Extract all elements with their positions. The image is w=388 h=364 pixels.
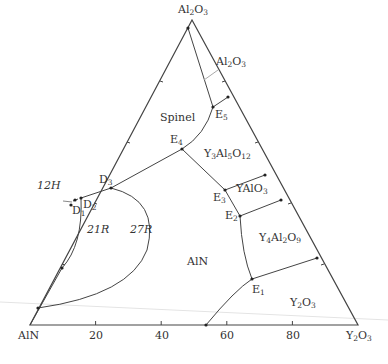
field-label-aln: AlN	[187, 256, 208, 267]
field-label-yag: Y3Al5O12	[204, 148, 251, 161]
point-label-e1: E1	[252, 284, 265, 297]
point-e3-edge	[263, 173, 266, 176]
tick-label-40: 40	[155, 330, 169, 341]
point-label-d1: D1	[72, 205, 86, 218]
point-label-e3: E3	[213, 192, 226, 205]
tick-label-80: 80	[286, 330, 300, 341]
boundary-e2-edge	[240, 200, 281, 216]
vertex-label-aln: AlN	[18, 330, 39, 341]
boundary-e5-edge	[213, 97, 228, 107]
point-e1-base	[204, 323, 207, 326]
leader-al2o3	[204, 70, 218, 80]
vertex-label-al2o3: Al2O3	[178, 4, 208, 17]
point-e2-edge	[279, 198, 282, 201]
invariant-points	[36, 26, 318, 326]
boundary-e2-e1	[240, 216, 252, 279]
field-label-y4al2o9: Y4Al2O9	[259, 232, 301, 245]
boundary-e4-d2	[81, 149, 182, 198]
point-label-e2: E2	[225, 210, 238, 223]
point-e1-edge	[315, 256, 318, 259]
point-label-e4: E4	[170, 134, 183, 147]
vertex-label-y2o3: Y2O3	[346, 330, 372, 343]
triangle-outline	[30, 20, 358, 325]
point-e1	[250, 277, 253, 280]
boundary-e1-base	[206, 279, 252, 325]
field-label-al2o3: Al2O3	[216, 56, 246, 69]
boundary-e1-edge	[252, 258, 317, 279]
point-e2	[238, 214, 241, 217]
point-12h	[73, 198, 76, 201]
field-label-spinel: Spinel	[160, 112, 195, 123]
leader-12h	[63, 201, 72, 202]
tick-label-60: 60	[220, 330, 234, 341]
field-label-12h: 12H	[37, 180, 61, 191]
point-21r-edge	[60, 266, 63, 269]
point-apex-spinel	[186, 26, 189, 29]
point-label-e5: E5	[215, 109, 228, 122]
point-label-d3: D3	[99, 174, 113, 187]
boundary-spinel-al2o3	[188, 28, 213, 107]
field-label-y2o3: Y2O3	[290, 297, 316, 310]
point-e5-edge	[226, 95, 229, 98]
field-label-27r: 27R	[130, 224, 152, 235]
tick-label-20: 20	[89, 330, 103, 341]
field-label-21r: 21R	[87, 224, 109, 235]
point-e4	[180, 147, 183, 150]
field-label-yalo3: YAlO3	[236, 183, 268, 196]
point-27r-edge	[36, 306, 39, 309]
